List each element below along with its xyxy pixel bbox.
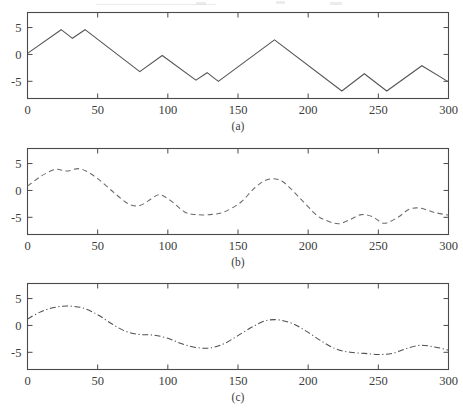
figure-container: 05010015020025030050-5(a)050100150200250… [0, 0, 463, 412]
x-tick-label: 250 [369, 103, 388, 117]
y-tick-label: 0 [15, 48, 21, 62]
x-tick-label: 150 [229, 374, 248, 388]
x-tick-label: 300 [439, 374, 458, 388]
y-tick-label: 5 [15, 157, 21, 171]
x-tick-label: 250 [369, 374, 388, 388]
y-tick-label: 0 [15, 184, 21, 198]
x-tick-label: 50 [91, 239, 104, 253]
x-tick-label: 200 [299, 239, 318, 253]
x-tick-label: 100 [158, 374, 177, 388]
y-tick-label: 0 [15, 319, 21, 333]
x-tick-label: 250 [369, 239, 388, 253]
x-tick-label: 150 [229, 239, 248, 253]
panel-caption: (b) [231, 256, 245, 269]
y-tick-label: 5 [15, 292, 21, 306]
three-panel-signal-figure: 05010015020025030050-5(a)050100150200250… [0, 0, 463, 412]
x-tick-label: 300 [439, 239, 458, 253]
figure-background [0, 0, 463, 412]
x-tick-label: 0 [24, 103, 30, 117]
y-tick-label: 5 [15, 21, 21, 35]
y-tick-label: -5 [11, 75, 21, 89]
x-tick-label: 0 [24, 239, 30, 253]
x-tick-label: 0 [24, 374, 30, 388]
x-tick-label: 300 [439, 103, 458, 117]
x-tick-label: 50 [91, 103, 104, 117]
y-tick-label: -5 [11, 211, 21, 225]
x-tick-label: 50 [91, 374, 104, 388]
panel-caption: (a) [232, 120, 245, 133]
x-tick-label: 150 [229, 103, 248, 117]
x-tick-label: 200 [299, 374, 318, 388]
y-tick-label: -5 [11, 346, 21, 360]
x-tick-label: 100 [158, 103, 177, 117]
x-tick-label: 200 [299, 103, 318, 117]
x-tick-label: 100 [158, 239, 177, 253]
panel-caption: (c) [232, 391, 245, 404]
